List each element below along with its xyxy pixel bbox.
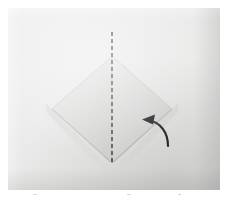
caption-text: origami fold the left and right corners …: [22, 194, 212, 196]
page-root: origami fold the left and right corners …: [0, 0, 228, 208]
origami-figure: [8, 8, 220, 190]
origami-photograph: [8, 8, 220, 190]
caption-strip: origami fold the left and right corners …: [0, 194, 228, 208]
